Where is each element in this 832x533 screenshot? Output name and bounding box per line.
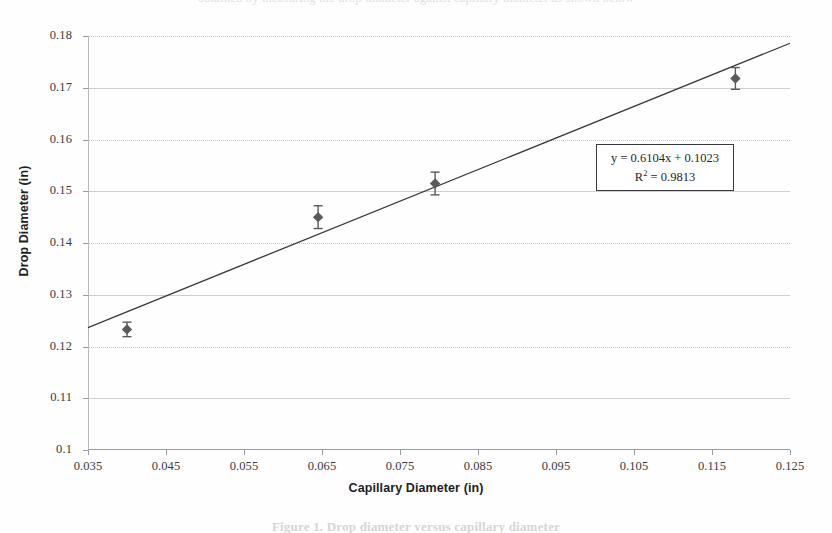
data-points-group: [122, 68, 741, 337]
data-point-marker: [122, 324, 132, 334]
data-point-marker: [430, 178, 440, 188]
equation-text: y = 0.6104x + 0.1023: [611, 149, 719, 167]
cut-off-figure-caption: Figure 1. Drop diameter versus capillary…: [0, 519, 832, 533]
trendline-equation-box: y = 0.6104x + 0.1023 R2 = 0.9813: [596, 144, 734, 191]
r-squared-text: R2 = 0.9813: [635, 167, 695, 186]
r-squared-value: = 0.9813: [647, 170, 695, 184]
data-point-marker: [730, 73, 740, 83]
y-axis-title: Drop Diameter (in): [17, 131, 31, 311]
r-squared-prefix: R: [635, 170, 643, 184]
data-point-marker: [313, 212, 323, 222]
x-axis-title: Capillary Diameter (in): [0, 481, 832, 495]
